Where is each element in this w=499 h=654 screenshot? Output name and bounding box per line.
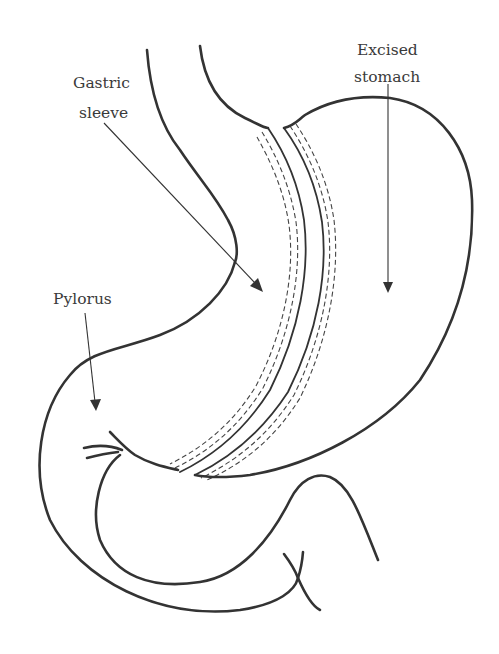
gastric-sleeve-label-line1: Gastric bbox=[73, 74, 130, 92]
excised-stomach-arrow bbox=[383, 84, 393, 293]
arrowhead-icon bbox=[90, 399, 101, 411]
excised-stomach-label-line1: Excised bbox=[357, 41, 418, 59]
esophagus bbox=[147, 46, 268, 262]
pylorus-label: Pylorus bbox=[53, 290, 112, 308]
arrowhead-icon bbox=[383, 282, 393, 293]
gastric-sleeve-arrow bbox=[104, 123, 263, 292]
sleeve-gastrectomy-diagram: Gastric sleeve Excised stomach Pylorus bbox=[0, 0, 499, 654]
staple-line-excised bbox=[195, 124, 336, 480]
gastric-sleeve-label-line2: sleeve bbox=[79, 104, 128, 122]
gastric-sleeve bbox=[40, 262, 378, 612]
pylorus-arrow bbox=[85, 313, 101, 411]
staple-line-sleeve bbox=[170, 128, 306, 472]
excised-stomach-label-line2: stomach bbox=[354, 68, 420, 86]
